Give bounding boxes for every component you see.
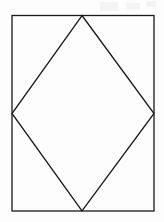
- figure-canvas: [0, 0, 164, 222]
- geometry-figure: [0, 0, 164, 222]
- inscribed-rhombus: [12, 16, 154, 212]
- outer-rectangle: [12, 16, 154, 212]
